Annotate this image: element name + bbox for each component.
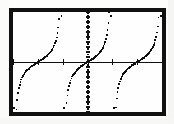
y-axis-line-segment (87, 54, 88, 56)
plot-dot-extreme (113, 107, 115, 109)
plot-dot (18, 87, 20, 89)
plot-dot (67, 95, 69, 97)
y-axis-line-segment (87, 25, 88, 27)
y-axis-line-segment (87, 85, 88, 87)
y-axis-line-segment (87, 100, 88, 102)
plot-dot (108, 12, 110, 13)
plot-dot (66, 102, 68, 104)
plot-dot (121, 76, 123, 78)
plot-dot (16, 99, 18, 101)
plot-dot (104, 41, 106, 43)
plot-dot (52, 48, 54, 50)
x-axis-tick (63, 59, 64, 65)
plot-dot (17, 92, 19, 94)
plot-dot (107, 29, 109, 31)
y-axis-line-segment (87, 82, 88, 84)
plot-dot (102, 47, 104, 49)
scan-edge-bottom (0, 118, 174, 124)
plot-dot (20, 79, 22, 81)
plot-dot-extreme (110, 15, 112, 17)
y-axis-line-segment (87, 51, 88, 53)
plot-dot (57, 27, 59, 29)
y-axis-line-segment (87, 93, 88, 95)
plot-dot-extreme (63, 107, 65, 109)
plot-dot (21, 77, 23, 79)
plot-dot (156, 32, 158, 34)
plot-dot (108, 22, 110, 24)
plot-dot-extreme (61, 15, 63, 17)
y-axis-line-segment (87, 98, 88, 100)
plot-dot (68, 85, 70, 87)
calculator-screen-area[interactable] (13, 12, 162, 112)
x-axis-tick (112, 59, 113, 65)
plot-dot (154, 39, 156, 41)
calculator-screenshot (0, 0, 174, 124)
plot-dot (118, 83, 120, 85)
y-axis-line-segment (87, 30, 88, 32)
y-axis-line-segment (87, 20, 88, 22)
scan-edge-right (168, 0, 174, 124)
y-axis-line-segment (87, 12, 88, 14)
y-axis-line-segment (87, 59, 88, 61)
plot-dot (55, 40, 57, 42)
y-axis-line-segment (87, 108, 88, 110)
plot-dot (152, 46, 154, 48)
y-axis-line-segment (87, 87, 88, 89)
plot-dot (57, 32, 59, 34)
y-axis-line-segment (87, 46, 88, 48)
x-axis-tick (13, 59, 14, 65)
plot-dot (157, 26, 159, 28)
plot-dot (20, 81, 22, 83)
plot-dot (116, 98, 118, 100)
y-axis-line-segment (87, 95, 88, 97)
plot-dot (54, 42, 56, 44)
plot-dot (153, 44, 155, 46)
plot-dot (19, 84, 21, 86)
y-axis-line-segment (87, 41, 88, 43)
plot-dot-extreme (13, 107, 15, 109)
plot-dot (105, 38, 107, 40)
y-axis-line-segment (87, 74, 88, 76)
y-axis-line-segment (87, 111, 88, 112)
y-axis-line-segment (87, 80, 88, 82)
y-axis-line-segment (87, 77, 88, 79)
plot-dot (56, 37, 58, 39)
y-axis-line-segment (87, 15, 88, 17)
plot-dot (106, 34, 108, 36)
y-axis-line-segment (87, 69, 88, 71)
y-axis-line-segment (87, 33, 88, 35)
plot-dot-extreme (160, 15, 162, 17)
plot-dot (155, 36, 157, 38)
plot-dot (120, 78, 122, 80)
y-axis-line-segment (87, 48, 88, 50)
y-axis-line-segment (87, 17, 88, 19)
tangent-function-plot (13, 12, 162, 112)
scan-edge-left (0, 0, 9, 124)
y-axis-line-segment (87, 28, 88, 30)
y-axis-line-segment (87, 103, 88, 105)
y-axis-line-segment (87, 35, 88, 37)
calculator-screen-frame (9, 8, 166, 116)
y-axis-line-segment (87, 22, 88, 24)
y-axis-line-segment (87, 64, 88, 66)
plot-dot (117, 91, 119, 93)
plot-dot (16, 109, 18, 111)
plot-dot (151, 48, 153, 50)
plot-dot (115, 107, 117, 109)
plot-dot (119, 81, 121, 83)
y-axis-line-segment (87, 90, 88, 92)
plot-dot (117, 87, 119, 89)
plot-dot (158, 17, 160, 19)
plot-dot (101, 49, 103, 51)
plot-dot (104, 43, 106, 45)
plot-dot (58, 18, 60, 20)
y-axis-line-segment (87, 43, 88, 45)
plot-dot (71, 78, 73, 80)
y-axis-line-segment (87, 38, 88, 40)
plot-dot (103, 45, 105, 47)
plot-dot (53, 45, 55, 47)
y-axis-line-segment (87, 72, 88, 74)
plot-dot (67, 89, 69, 91)
plot-dot (53, 46, 55, 48)
plot-dot (70, 80, 72, 82)
